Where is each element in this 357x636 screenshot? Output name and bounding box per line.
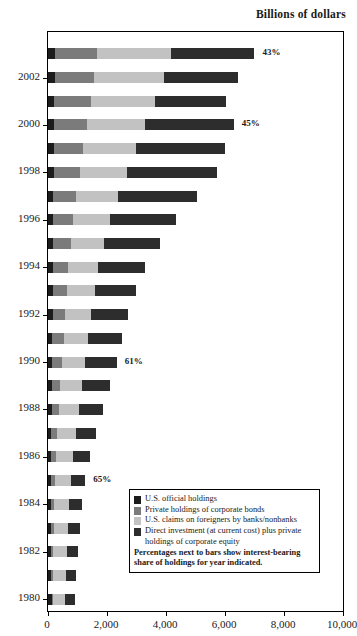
bar-segment <box>53 570 65 581</box>
bar-segment <box>94 72 164 83</box>
bar-segment <box>127 167 217 178</box>
bar-row <box>48 475 85 486</box>
y-axis-label: 1996 <box>0 213 40 224</box>
y-axis-tick <box>43 362 48 363</box>
bar-segment <box>73 451 90 462</box>
bar-segment <box>54 499 69 510</box>
bar-segment <box>53 594 65 605</box>
bar-row <box>48 357 117 368</box>
y-axis-label: 2000 <box>0 118 40 129</box>
bar-segment <box>80 167 127 178</box>
x-axis-labels: 02,0004,0006,0008,00010,000 <box>47 618 344 634</box>
legend-label-claims: U.S. claims on foreigners by banks/nonba… <box>145 515 297 525</box>
bar-segment <box>87 119 145 130</box>
legend-label-bonds: Private holdings of corporate bonds <box>145 505 265 515</box>
bar-row <box>48 309 128 320</box>
bar-segment <box>91 96 155 107</box>
bar-row <box>48 285 136 296</box>
y-axis-label: 1990 <box>0 355 40 366</box>
bar-percent-label: 45% <box>242 118 260 129</box>
bar-segment <box>54 143 84 154</box>
bar-segment <box>53 309 65 320</box>
y-axis-tick <box>43 267 48 268</box>
x-axis-tick <box>107 611 108 616</box>
bar-segment <box>56 451 74 462</box>
x-axis-tick <box>48 611 49 616</box>
legend-note-line1: Percentages next to bars show interest-b… <box>134 548 315 558</box>
bar-segment <box>110 214 176 225</box>
bar-row <box>48 262 145 273</box>
legend-item: U.S. official holdings <box>134 494 315 504</box>
x-axis-label: 6,000 <box>212 618 237 630</box>
x-axis-tick <box>343 611 344 616</box>
bar-row <box>48 499 82 510</box>
legend-swatch-direct <box>134 528 141 536</box>
bar-segment <box>54 96 91 107</box>
bar-segment <box>68 523 80 534</box>
bar-segment <box>67 285 95 296</box>
x-axis-label: 2,000 <box>94 618 119 630</box>
bar-segment <box>65 594 75 605</box>
y-axis-tick <box>43 504 48 505</box>
bar-segment <box>79 404 103 415</box>
y-axis-tick <box>43 409 48 410</box>
bar-segment <box>83 143 136 154</box>
y-axis-label: 1992 <box>0 308 40 319</box>
bar-segment <box>91 309 128 320</box>
bar-segment <box>65 309 91 320</box>
bar-segment <box>98 262 145 273</box>
y-axis-label: 1982 <box>0 545 40 556</box>
x-axis-label: 8,000 <box>271 618 296 630</box>
bar-segment <box>76 428 96 439</box>
legend-note-line2: share of holdings for year indicated. <box>134 558 315 568</box>
bar-row <box>48 191 197 202</box>
bar-segment <box>60 380 82 391</box>
page-title: Billions of dollars <box>256 8 346 20</box>
bar-segment <box>53 191 76 202</box>
bar-row <box>48 72 238 83</box>
bar-segment <box>53 214 73 225</box>
bar-segment <box>55 72 95 83</box>
y-axis-label: 1998 <box>0 165 40 176</box>
bar-row <box>48 96 226 107</box>
x-axis-tick <box>166 611 167 616</box>
y-axis-tick <box>43 457 48 458</box>
bar-row <box>48 119 234 130</box>
legend-swatch-claims <box>134 517 141 525</box>
bar-row <box>48 333 122 344</box>
bar-segment <box>48 48 55 59</box>
x-axis-label: 4,000 <box>153 618 178 630</box>
bar-row <box>48 523 80 534</box>
bar-segment <box>136 143 225 154</box>
y-axis-tick <box>43 172 48 173</box>
y-axis-tick <box>43 552 48 553</box>
bar-segment <box>53 238 71 249</box>
bar-segment <box>97 48 171 59</box>
bar-segment <box>52 357 62 368</box>
bar-row <box>48 404 103 415</box>
legend-label-direct: Direct investment (at current cost) plus… <box>145 526 301 536</box>
bar-segment <box>95 285 136 296</box>
bar-segment <box>48 72 55 83</box>
x-axis-tick <box>284 611 285 616</box>
bar-row <box>48 48 254 59</box>
x-axis-label: 10,000 <box>327 618 357 630</box>
bar-segment <box>82 380 109 391</box>
y-axis-tick <box>43 315 48 316</box>
bar-row <box>48 143 225 154</box>
y-axis-tick <box>43 125 48 126</box>
bar-segment <box>145 119 233 130</box>
y-axis-tick <box>43 78 48 79</box>
bar-segment <box>171 48 254 59</box>
bar-row <box>48 428 96 439</box>
bar-segment <box>71 475 85 486</box>
bar-segment <box>52 380 61 391</box>
bar-segment <box>155 96 226 107</box>
bar-segment <box>59 404 79 415</box>
bar-segment <box>69 499 81 510</box>
bar-segment <box>104 238 160 249</box>
bar-segment <box>53 285 67 296</box>
y-axis-tick <box>43 599 48 600</box>
bar-percent-label: 61% <box>125 356 143 367</box>
bar-segment <box>88 333 122 344</box>
